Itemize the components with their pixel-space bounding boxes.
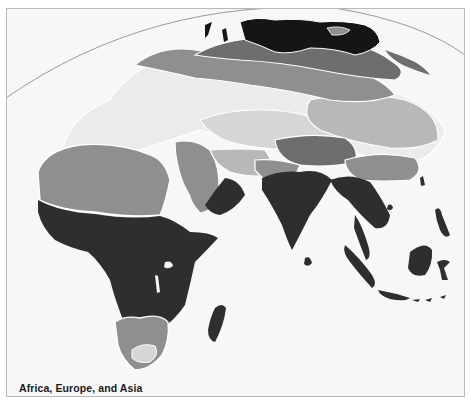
thematic-map	[6, 8, 465, 397]
map-caption: Africa, Europe, and Asia	[19, 382, 142, 394]
zone-southern-africa-core	[132, 345, 157, 363]
map-frame	[6, 8, 465, 397]
zone-sahara	[38, 144, 170, 216]
zone-china-south	[345, 154, 419, 181]
